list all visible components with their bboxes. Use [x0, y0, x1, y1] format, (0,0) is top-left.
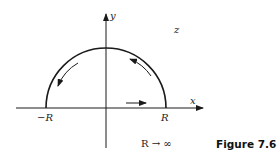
figure-caption: Figure 7.6 [216, 138, 276, 150]
plane-label: z [173, 24, 180, 35]
limit-note: R → ∞ [141, 138, 172, 149]
left-point-label: −R [37, 112, 53, 123]
direction-arrow-right-arc [130, 59, 151, 76]
y-axis-label: y [109, 10, 116, 21]
right-point-label: R [160, 112, 169, 123]
direction-arrow-left-arc [58, 63, 78, 86]
contour-diagram: y z x −R R R → ∞ Figure 7.6 [0, 0, 277, 157]
x-axis-label: x [190, 95, 196, 106]
